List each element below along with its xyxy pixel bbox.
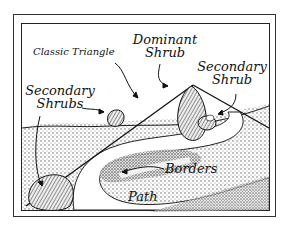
label-secondary-shrubs-line2: Shrubs (24, 97, 96, 110)
label-path: Path (128, 190, 158, 203)
label-classic-triangle: Classic Triangle (33, 47, 115, 57)
label-dominant-shrub-line2: Shrub (130, 46, 200, 59)
label-secondary-shrub: Secondary Shrub (196, 60, 268, 86)
secondary-shrub-upper (107, 110, 124, 126)
label-secondary-shrub-line2: Shrub (196, 73, 268, 86)
label-dominant-shrub: Dominant Shrub (130, 33, 200, 59)
dominant-shrub (178, 86, 207, 140)
label-secondary-shrubs: Secondary Shrubs (24, 84, 96, 110)
label-borders: Borders (165, 162, 218, 175)
